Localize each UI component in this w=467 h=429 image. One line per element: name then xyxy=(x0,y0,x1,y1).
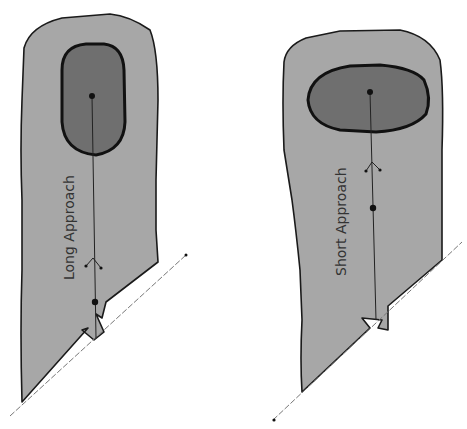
long-chevron-right-dot xyxy=(99,266,102,269)
approach-diagram: Long Approach Short Approach xyxy=(0,0,467,429)
long-approach-hole: Long Approach xyxy=(10,14,188,416)
long-green xyxy=(62,44,125,155)
short-approach-hole: Short Approach xyxy=(272,30,462,422)
short-ball-dot xyxy=(370,205,376,211)
short-approach-label: Short Approach xyxy=(333,167,349,276)
long-cut-end-dot xyxy=(185,254,188,257)
short-chevron-left-dot xyxy=(364,169,367,172)
short-green xyxy=(308,65,429,132)
long-ball-dot xyxy=(92,299,98,305)
long-pin-dot xyxy=(89,93,95,99)
short-cut-end-dot xyxy=(272,418,275,421)
long-approach-label: Long Approach xyxy=(61,175,77,280)
short-pin-dot xyxy=(367,89,373,95)
long-chevron-left-dot xyxy=(84,264,87,267)
short-chevron-right-dot xyxy=(378,168,381,171)
